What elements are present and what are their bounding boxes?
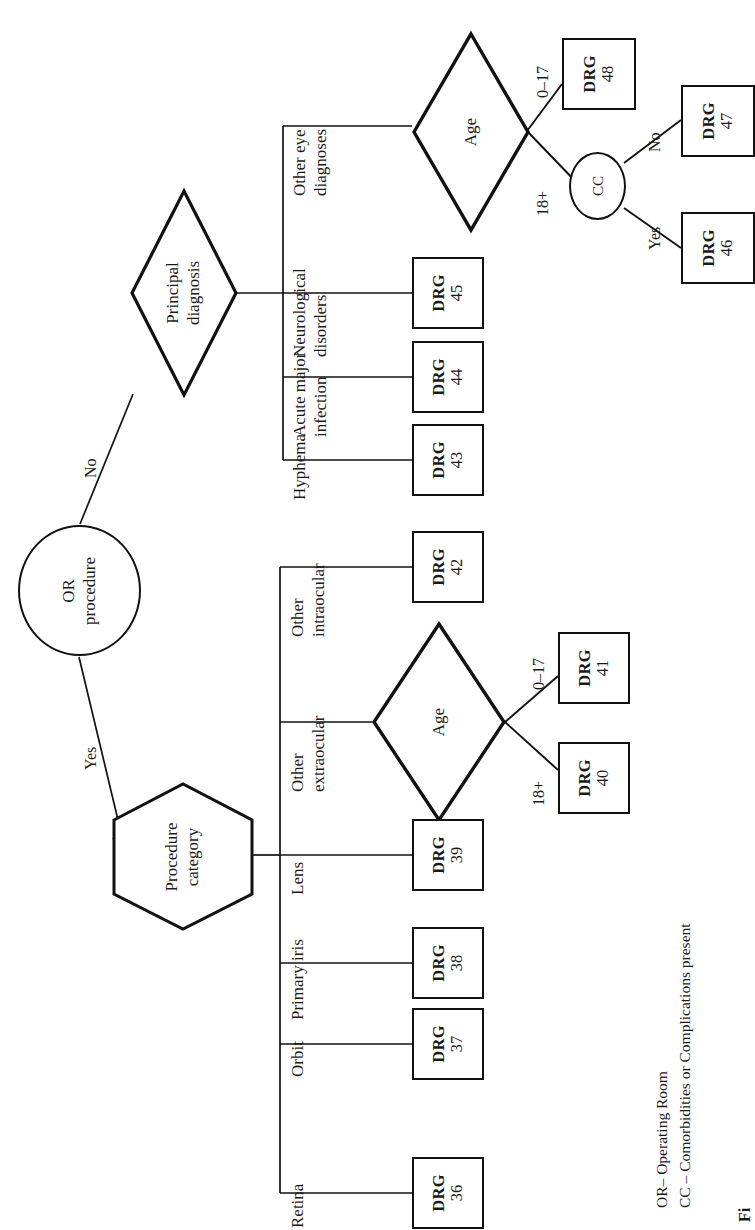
drg-box-46[interactable]: DRG46 [681,212,755,284]
drg-box-41[interactable]: DRG41 [558,632,630,704]
node-procedure-category[interactable]: Procedure category [112,782,254,931]
branch-label-neurological-disorders: Neurological disorders [290,268,331,357]
branch-label-other-eye-diagnoses: Other eye diagnoses [290,129,331,196]
edge-label-age-lower-18plus: 18+ [530,781,548,806]
edge-label-cc-no: No [646,132,664,152]
branch-label-acute-major-infection: Acute major infection [290,353,331,438]
legend-line-cc: CC – Comorbidities or Complications pres… [673,923,696,1208]
branch-label-orbit: Orbit [288,1041,309,1077]
drg-box-37[interactable]: DRG37 [412,1008,484,1080]
drg-box-48[interactable]: DRG48 [562,38,636,110]
drg-box-47-label: DRG47 [700,61,737,181]
figure-caption: Fi [736,1208,754,1222]
node-age-upper[interactable]: Age [412,32,530,232]
node-or-procedure-label: OR procedure [59,557,100,625]
drg-box-41-label: DRG41 [576,608,613,728]
edge-label-age-upper-0-17: 0–17 [534,66,552,98]
drg-box-39[interactable]: DRG39 [412,819,484,891]
node-procedure-category-label: Procedure category [162,822,203,891]
drg-box-40[interactable]: DRG40 [558,742,630,814]
edge-label-cc-yes: Yes [646,227,664,250]
branch-label-other-extraocular: Other extraocular [288,716,329,792]
node-principal-diagnosis-label: Principal diagnosis [163,261,204,325]
branch-label-retina: Retina [288,1184,309,1228]
drg-box-37-label: DRG37 [430,984,467,1104]
node-or-procedure[interactable]: OR procedure [18,525,141,656]
node-age-upper-label: Age [461,118,482,146]
node-age-lower[interactable]: Age [372,622,506,822]
node-cc[interactable]: CC [569,152,626,220]
edge-label-or-no: No [82,458,100,478]
branch-label-hyphema: Hyphema [290,434,311,500]
edge-label-or-yes: Yes [82,747,100,770]
drg-box-42-label: DRG42 [430,507,467,627]
drg-box-43-label: DRG43 [430,400,467,520]
node-principal-diagnosis[interactable]: Principal diagnosis [130,189,238,397]
drg-box-48-label: DRG48 [581,14,618,134]
drg-box-46-label: DRG46 [700,188,737,308]
node-age-lower-label: Age [429,708,450,736]
drg-box-40-label: DRG40 [576,718,613,838]
drg-box-47[interactable]: DRG47 [681,85,755,157]
branch-label-primary-iris: Primary iris [288,939,309,1020]
edge-label-age-upper-18plus: 18+ [534,191,552,216]
drg-box-43[interactable]: DRG43 [412,424,484,496]
legend: OR– Operating Room CC – Comorbidities or… [650,923,697,1208]
drg-box-42[interactable]: DRG42 [412,531,484,603]
branch-label-lens: Lens [288,862,309,895]
node-cc-label: CC [588,176,606,196]
edge-label-age-lower-0-17: 0–17 [530,658,548,690]
drg-box-36-label: DRG36 [430,1133,467,1230]
drg-box-36[interactable]: DRG36 [412,1157,484,1229]
branch-label-other-intraocular: Other intraocular [288,563,329,637]
drg-box-39-label: DRG39 [430,795,467,915]
legend-line-or: OR– Operating Room [650,923,673,1208]
